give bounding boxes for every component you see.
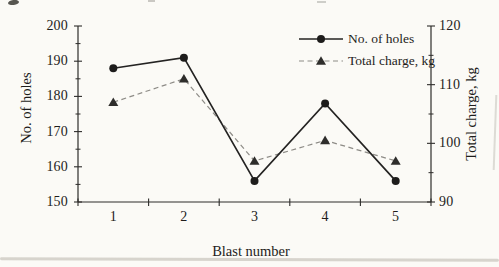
y-right-tick-label: 90 <box>439 193 479 211</box>
x-tick-label: 5 <box>379 208 413 226</box>
y-left-tick-label: 150 <box>34 193 68 211</box>
y-right-tick-label: 100 <box>439 134 479 152</box>
data-point-circle <box>321 99 329 107</box>
y-left-tick-label: 160 <box>34 158 68 176</box>
legend-key-marker-holes <box>317 35 325 43</box>
legend-label-charge: Total charge, kg <box>348 53 435 69</box>
y-left-tick-label: 180 <box>34 87 68 105</box>
y-left-tick-label: 170 <box>34 123 68 141</box>
x-axis-title: Blast number <box>212 243 290 260</box>
data-point-triangle <box>179 74 189 83</box>
chart-plot-area <box>0 0 499 267</box>
y-left-axis-title: No. of holes <box>18 72 35 143</box>
legend-label-holes: No. of holes <box>348 31 414 47</box>
y-left-tick-label: 190 <box>34 52 68 70</box>
data-point-circle <box>109 64 117 72</box>
x-tick-label: 2 <box>167 208 201 226</box>
data-point-circle <box>251 177 259 185</box>
y-left-tick-label: 200 <box>34 17 68 35</box>
x-tick-label: 3 <box>238 208 272 226</box>
figure-canvas: No. of holes Total charge, kg Blast numb… <box>0 0 499 267</box>
x-tick-label: 1 <box>96 208 130 226</box>
x-tick-label: 4 <box>308 208 342 226</box>
data-point-circle <box>392 177 400 185</box>
series-line-charge <box>113 79 395 161</box>
y-right-tick-label: 120 <box>439 17 479 35</box>
data-point-triangle <box>108 97 118 106</box>
y-right-tick-label: 110 <box>439 76 479 94</box>
data-point-circle <box>180 54 188 62</box>
data-point-triangle <box>250 156 260 165</box>
data-point-triangle <box>320 136 330 145</box>
